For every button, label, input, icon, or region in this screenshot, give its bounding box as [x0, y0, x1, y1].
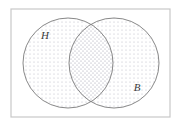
set-b-label: B — [134, 81, 141, 93]
set-h-label: H — [40, 29, 50, 41]
venn-diagram-canvas: H B — [0, 0, 182, 128]
venn-diagram-figure: H B — [0, 0, 182, 128]
